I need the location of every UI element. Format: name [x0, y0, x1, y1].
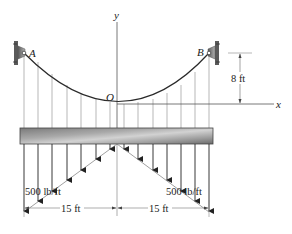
- load-left-label: 500 lb/ft: [25, 186, 61, 197]
- x-axis-label: x: [275, 98, 281, 110]
- x-axis: x: [117, 98, 281, 110]
- y-axis-label: y: [113, 9, 119, 21]
- span-right-label: 15 ft: [149, 203, 169, 214]
- hanger-rods: [24, 55, 209, 128]
- origin-label: O: [106, 91, 114, 103]
- support-b-label: B: [197, 46, 204, 58]
- span-dimension: 15 ft 15 ft: [24, 200, 209, 217]
- load-arrows: [24, 144, 209, 211]
- deck-beam: [20, 128, 213, 144]
- cable-bridge-diagram: y x O A B: [0, 0, 292, 234]
- distributed-load: 500 lb/ft 500 lb/ft: [24, 144, 209, 212]
- support-a-label: A: [28, 47, 36, 59]
- load-right-label: 500 lb/ft: [166, 186, 202, 197]
- sag-dimension: 8 ft: [228, 53, 252, 104]
- y-axis: y: [113, 9, 119, 128]
- span-left-label: 15 ft: [61, 203, 81, 214]
- sag-dimension-label: 8 ft: [231, 73, 245, 84]
